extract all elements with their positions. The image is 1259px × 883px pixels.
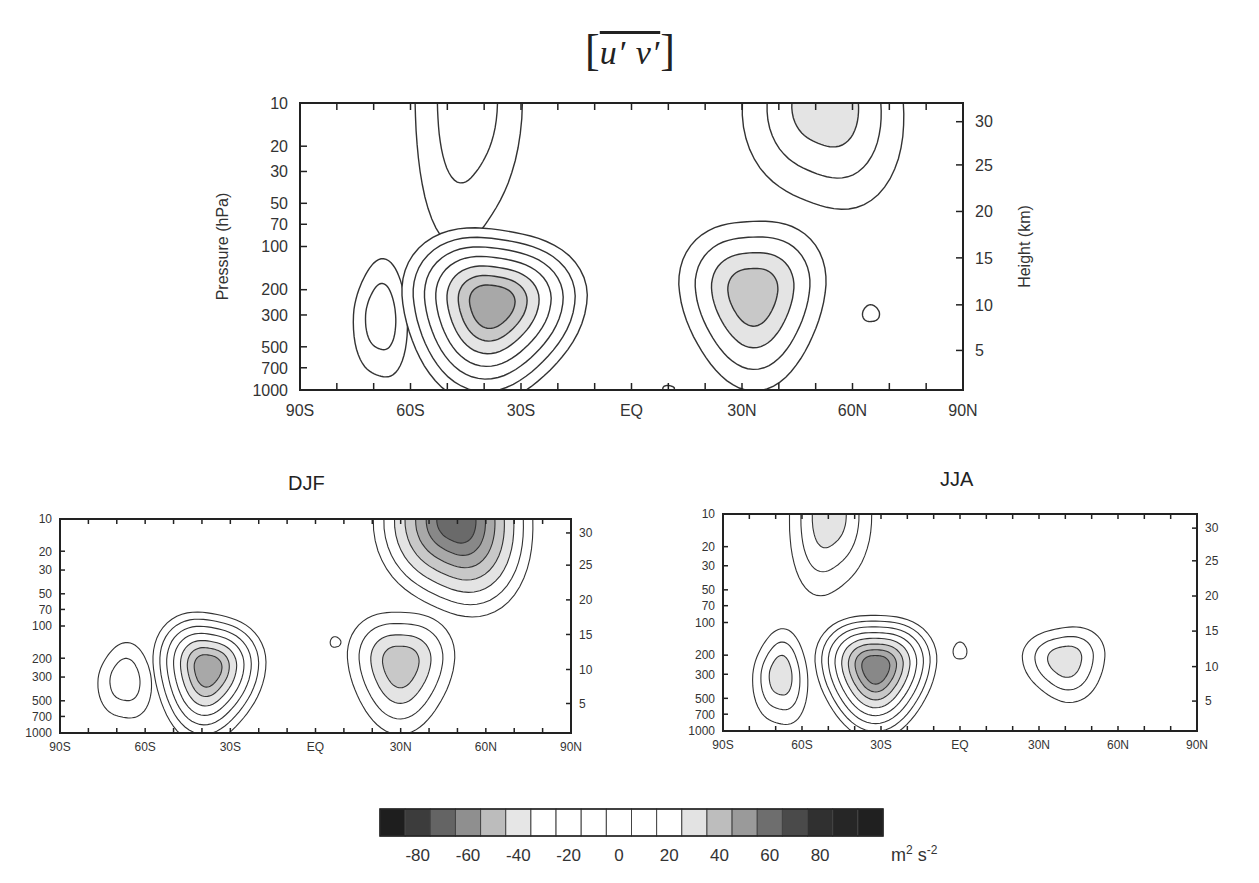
- x-tick-label: 30S: [507, 402, 535, 419]
- colorbar-tick-label: -20: [556, 846, 581, 865]
- y-tick-label: 200: [695, 648, 715, 662]
- colorbar-box: [632, 809, 657, 836]
- y-axis-label: Pressure (hPa): [214, 193, 231, 301]
- x-tick-label: 90S: [286, 402, 314, 419]
- colorbar-tick-label: -80: [405, 846, 430, 865]
- y2-tick-label: 20: [579, 593, 593, 607]
- colorbar-box: [707, 809, 732, 836]
- colorbar-tick-label: 80: [811, 846, 830, 865]
- colorbar-box: [531, 809, 556, 836]
- contours-DJF: [98, 436, 533, 744]
- y-tick-label: 50: [270, 195, 288, 212]
- y2-tick-label: 10: [579, 663, 593, 677]
- x-tick-label: 90N: [1186, 738, 1208, 752]
- colorbar-box: [657, 809, 682, 836]
- y-tick-label: 30: [702, 559, 716, 573]
- y-tick-label: 300: [32, 670, 52, 684]
- y2-tick-label: 5: [579, 697, 586, 711]
- colorbar-box: [757, 809, 782, 836]
- y-tick-label: 500: [261, 339, 288, 356]
- y-tick-label: 700: [695, 708, 715, 722]
- x-tick-label: 60S: [134, 740, 155, 754]
- y-tick-label: 200: [261, 281, 288, 298]
- y-tick-label: 1000: [252, 382, 288, 399]
- colorbar-box: [732, 809, 757, 836]
- y-tick-label: 500: [695, 692, 715, 706]
- x-tick-label: 90N: [948, 402, 977, 419]
- colorbar-tick-label: -60: [456, 846, 481, 865]
- x-tick-label: 30N: [1028, 738, 1050, 752]
- figure: [u′ v′] DJF JJA 90S60S30SEQ30N60N90N1020…: [0, 0, 1259, 883]
- contour-EQ-small-1: [330, 637, 341, 648]
- x-tick-label: 60N: [838, 402, 867, 419]
- x-tick-label: 60N: [1107, 738, 1129, 752]
- y-tick-label: 20: [270, 138, 288, 155]
- y-tick-label: 50: [39, 587, 53, 601]
- x-tick-label: 90S: [49, 740, 70, 754]
- x-tick-label: 60S: [396, 402, 424, 419]
- x-tick-label: 90S: [712, 738, 733, 752]
- y2-tick-label: 10: [975, 297, 993, 314]
- y2-axis-label: Height (km): [1016, 205, 1033, 288]
- colorbar-box: [782, 809, 807, 836]
- y2-tick-label: 15: [975, 250, 993, 267]
- colorbar-box: [606, 809, 631, 836]
- y-tick-label: 70: [270, 216, 288, 233]
- colorbar-box: [682, 809, 707, 836]
- colorbar-box: [833, 809, 858, 836]
- colorbar-units: m2 s-2: [891, 843, 938, 865]
- colorbar-box: [808, 809, 833, 836]
- colorbar-box: [380, 809, 405, 836]
- y-tick-label: 20: [702, 540, 716, 554]
- colorbar-tick-label: 0: [614, 846, 623, 865]
- y-tick-label: 500: [32, 694, 52, 708]
- y-tick-label: 30: [270, 163, 288, 180]
- colorbar-box: [556, 809, 581, 836]
- y2-tick-label: 20: [975, 203, 993, 220]
- colorbar-tick-label: 60: [760, 846, 779, 865]
- colorbar-tick-label: 20: [660, 846, 679, 865]
- y-tick-label: 50: [702, 583, 716, 597]
- colorbar-box: [430, 809, 455, 836]
- contour-NH-small-1: [863, 305, 880, 322]
- x-tick-label: 60N: [475, 740, 497, 754]
- y2-tick-label: 10: [1205, 660, 1219, 674]
- y2-tick-label: 25: [579, 558, 593, 572]
- colorbar-box: [506, 809, 531, 836]
- chart-canvas: 90S60S30SEQ30N60N90N10203050701002003005…: [0, 0, 1259, 883]
- x-tick-label: 30S: [870, 738, 891, 752]
- y-tick-label: 100: [32, 619, 52, 633]
- y2-tick-label: 15: [1205, 624, 1219, 638]
- y-tick-label: 100: [695, 616, 715, 630]
- y-tick-label: 700: [32, 710, 52, 724]
- panel-annual: 90S60S30SEQ30N60N90N10203050701002003005…: [214, 0, 1033, 419]
- y-tick-label: 10: [39, 512, 53, 526]
- y-tick-label: 20: [39, 545, 53, 559]
- y-tick-label: 700: [261, 360, 288, 377]
- colorbar-box: [858, 809, 883, 836]
- contour-EQ-small-1: [953, 642, 967, 659]
- y2-tick-label: 25: [975, 157, 993, 174]
- y2-tick-label: 30: [579, 526, 593, 540]
- contours-annual: [353, 0, 904, 404]
- colorbar-box: [481, 809, 506, 836]
- colorbar: -80-60-40-20020406080m2 s-2: [380, 809, 938, 865]
- colorbar-box: [405, 809, 430, 836]
- x-tick-label: 60S: [791, 738, 812, 752]
- x-tick-label: EQ: [951, 738, 968, 752]
- y-tick-label: 10: [702, 507, 716, 521]
- y-tick-label: 1000: [688, 724, 715, 738]
- y-tick-label: 300: [695, 668, 715, 682]
- y-tick-label: 70: [39, 603, 53, 617]
- y-tick-label: 30: [39, 563, 53, 577]
- y2-tick-label: 15: [579, 628, 593, 642]
- y-tick-label: 100: [261, 238, 288, 255]
- y2-tick-label: 5: [975, 342, 984, 359]
- y-tick-label: 10: [270, 95, 288, 112]
- y2-tick-label: 30: [1205, 521, 1219, 535]
- colorbar-tick-label: 40: [710, 846, 729, 865]
- colorbar-box: [581, 809, 606, 836]
- y-tick-label: 70: [702, 599, 716, 613]
- x-tick-label: 30N: [727, 402, 756, 419]
- contours-JJA: [753, 445, 1105, 740]
